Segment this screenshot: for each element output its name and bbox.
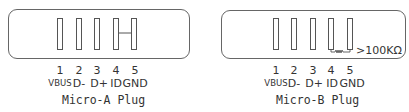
micro-a-plug: 1 2 3 4 5 VBUS D- D+ ID GND Micro-A Plug — [0, 0, 204, 112]
pin-number: 5 — [347, 64, 354, 77]
pin-signal: D- — [288, 77, 300, 90]
pin-number: 2 — [291, 64, 298, 77]
pin-signal: ID — [110, 77, 122, 90]
pin-number: 3 — [94, 64, 101, 77]
pin-number: 1 — [57, 64, 64, 77]
micro-a-title: Micro-A Plug — [62, 93, 145, 107]
pin-signal: D- — [73, 77, 85, 90]
pin-signal: VBUS — [264, 78, 287, 88]
micro-b-plug: >100KΩ 1 2 3 4 5 VBUS D- D+ ID GND Micro… — [204, 0, 408, 112]
pin-signal: ID — [326, 77, 338, 90]
pin-signal: GND — [339, 77, 364, 90]
pin-number: 2 — [76, 64, 83, 77]
pin-number: 4 — [328, 64, 335, 77]
pin-number: 5 — [132, 64, 139, 77]
pin-signal: GND — [122, 77, 147, 90]
pin-signal: D+ — [90, 77, 108, 90]
resistor-value-label: >100KΩ — [356, 44, 402, 57]
pin-number: 3 — [310, 64, 317, 77]
micro-b-title: Micro-B Plug — [276, 93, 359, 107]
pin-number: 1 — [273, 64, 280, 77]
pin-signal: D+ — [305, 77, 323, 90]
pin-number: 4 — [113, 64, 120, 77]
pin-signal: VBUS — [48, 78, 71, 88]
